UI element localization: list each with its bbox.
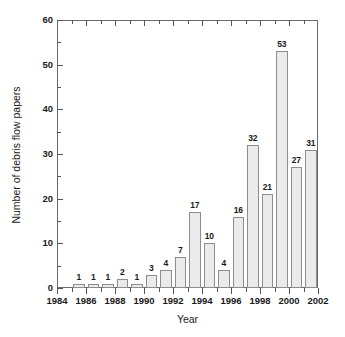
bar-group: 1	[86, 20, 101, 288]
bar-value-label: 7	[173, 245, 188, 255]
bar	[131, 284, 143, 288]
y-tick-major	[57, 154, 63, 155]
bar-group: 1	[101, 20, 116, 288]
bar-group: 4	[217, 20, 232, 288]
x-tick-major	[115, 288, 116, 294]
x-tick-top-major	[202, 20, 203, 26]
x-tick-minor	[159, 288, 160, 292]
x-tick-top-major	[86, 20, 87, 26]
y-tick-major	[57, 65, 63, 66]
bar-value-label: 1	[130, 272, 145, 282]
bar-group: 32	[246, 20, 261, 288]
x-tick-top-minor	[246, 20, 247, 24]
bar	[160, 270, 172, 288]
x-tick-minor	[188, 288, 189, 292]
x-tick-top-minor	[72, 20, 73, 24]
x-tick-top-minor	[130, 20, 131, 24]
bar-value-label: 53	[275, 39, 290, 49]
bar-value-label: 1	[101, 272, 116, 282]
y-tick-major	[57, 199, 63, 200]
bar-value-label: 16	[231, 205, 246, 215]
bar-group: 1	[130, 20, 145, 288]
x-tick-top-major	[144, 20, 145, 26]
x-tick-top-major	[260, 20, 261, 26]
x-tick-minor	[101, 288, 102, 292]
bar	[102, 284, 114, 288]
bar-group: 2	[115, 20, 130, 288]
bar-group: 31	[304, 20, 319, 288]
bar-value-label: 4	[217, 258, 232, 268]
x-tick-top-minor	[159, 20, 160, 24]
y-tick-minor	[57, 176, 61, 177]
bar	[247, 145, 259, 288]
bar-value-label: 3	[144, 263, 159, 273]
bar-group: 4	[159, 20, 174, 288]
bar-value-label: 10	[202, 231, 217, 241]
bar-group: 10	[202, 20, 217, 288]
bar	[189, 212, 201, 288]
x-tick-top-minor	[188, 20, 189, 24]
bar	[233, 217, 245, 288]
bar-group: 17	[188, 20, 203, 288]
y-tick-minor	[57, 42, 61, 43]
x-tick-minor	[130, 288, 131, 292]
y-tick-minor	[57, 221, 61, 222]
plot-area: 1112134717104163221532731	[57, 20, 318, 288]
bar-group: 21	[260, 20, 275, 288]
bar-value-label: 32	[246, 133, 261, 143]
bar-value-label: 1	[72, 272, 87, 282]
x-tick-top-major	[289, 20, 290, 26]
bar-group: 27	[289, 20, 304, 288]
x-tick-top-minor	[101, 20, 102, 24]
bar	[88, 284, 100, 288]
x-tick-top-major	[115, 20, 116, 26]
bar	[291, 167, 303, 288]
x-tick-top-major	[231, 20, 232, 26]
bar	[146, 275, 158, 288]
x-tick-major	[86, 288, 87, 294]
x-tick-top-minor	[304, 20, 305, 24]
bar-chart-figure: 1112134717104163221532731 0102030405060 …	[0, 0, 345, 337]
bar	[218, 270, 230, 288]
x-tick-major	[260, 288, 261, 294]
x-axis-title-text: Year	[177, 313, 198, 325]
y-tick-label: 0	[13, 283, 53, 293]
y-tick-minor	[57, 132, 61, 133]
bar-value-label: 1	[86, 272, 101, 282]
x-tick-major	[202, 288, 203, 294]
x-tick-label: 2002	[296, 295, 340, 306]
bar	[262, 194, 274, 288]
bar	[305, 150, 317, 288]
x-tick-minor	[72, 288, 73, 292]
bar-value-label: 31	[304, 138, 319, 148]
y-tick-label: 10	[13, 238, 53, 248]
x-tick-minor	[217, 288, 218, 292]
bar-group: 7	[173, 20, 188, 288]
x-axis-title: Year	[0, 313, 345, 325]
bar-group: 53	[275, 20, 290, 288]
x-tick-major	[144, 288, 145, 294]
x-tick-major	[173, 288, 174, 294]
bar	[175, 257, 187, 288]
y-tick-major	[57, 20, 63, 21]
bar	[73, 284, 85, 288]
bar-value-label: 4	[159, 258, 174, 268]
x-tick-major	[231, 288, 232, 294]
bar	[276, 51, 288, 288]
bar-value-label: 17	[188, 200, 203, 210]
x-tick-top-major	[173, 20, 174, 26]
bar	[204, 243, 216, 288]
x-tick-top-minor	[275, 20, 276, 24]
x-tick-minor	[275, 288, 276, 292]
x-tick-minor	[246, 288, 247, 292]
x-tick-top-minor	[217, 20, 218, 24]
x-tick-minor	[304, 288, 305, 292]
y-tick-label: 60	[13, 15, 53, 25]
bar-group: 3	[144, 20, 159, 288]
y-tick-minor	[57, 87, 61, 88]
bar-group: 16	[231, 20, 246, 288]
y-tick-label: 50	[13, 60, 53, 70]
x-tick-major	[57, 288, 58, 294]
bar-value-label: 2	[115, 267, 130, 277]
bar-group: 1	[72, 20, 87, 288]
